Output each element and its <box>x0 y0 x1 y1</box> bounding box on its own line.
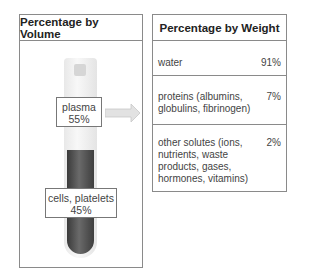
weight-panel: Percentage by Weight water 91% proteins … <box>152 14 287 192</box>
plasma-label: plasma <box>57 101 101 113</box>
arrow-right-icon <box>105 104 141 122</box>
weight-row-percent: 2% <box>267 137 281 149</box>
cells-label: cells, platelets <box>46 192 116 204</box>
weight-row-percent: 91% <box>261 57 281 69</box>
plasma-label-box: plasma 55% <box>56 97 102 127</box>
weight-panel-title: Percentage by Weight <box>153 15 286 41</box>
cells-label-box: cells, platelets 45% <box>45 188 117 218</box>
plasma-percent: 55% <box>57 113 101 125</box>
weight-row-proteins: proteins (albumins, globulins, fibrinoge… <box>153 76 286 125</box>
weight-row-label: water <box>158 57 182 69</box>
weight-row-label: other solutes (ions, nutrients, waste pr… <box>158 137 248 185</box>
weight-row-other-solutes: other solutes (ions, nutrients, waste pr… <box>153 125 286 185</box>
weight-row-water: water 91% <box>153 41 286 76</box>
volume-panel-title: Percentage by Volume <box>20 15 142 41</box>
cells-percent: 45% <box>46 204 116 216</box>
weight-row-label: proteins (albumins, globulins, fibrinoge… <box>158 91 250 115</box>
weight-row-percent: 7% <box>267 91 281 103</box>
blood-test-tube <box>64 58 97 270</box>
tube-plasma-highlight <box>74 64 86 76</box>
